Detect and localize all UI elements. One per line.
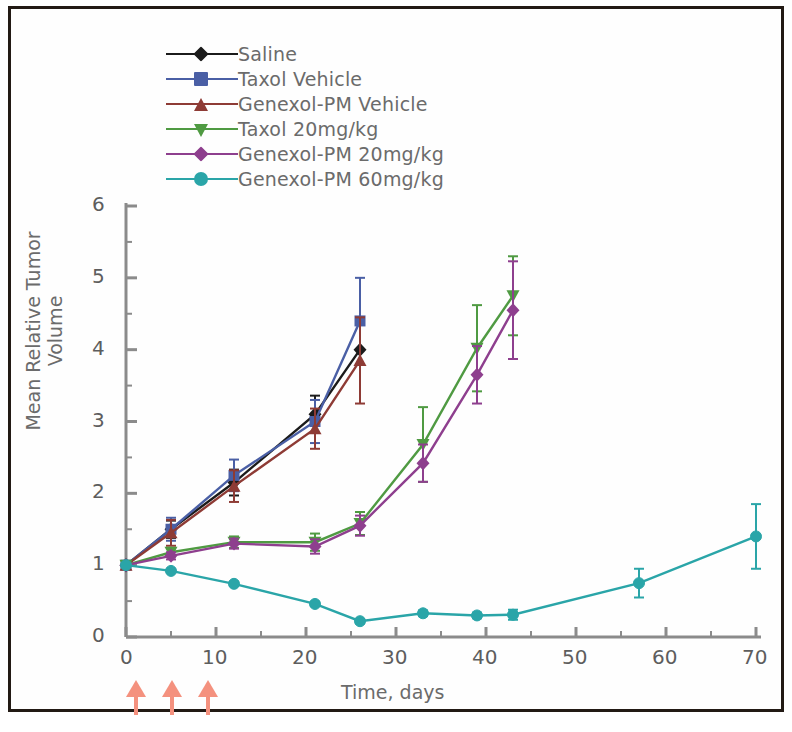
data-point-6-8	[508, 609, 519, 620]
data-point-6-7	[472, 610, 483, 621]
plot-area: Mean Relative Tumor Volume Time, days 01…	[11, 9, 787, 715]
dosing-arrow-head-2	[162, 680, 182, 697]
data-point-6-1	[121, 560, 132, 571]
figure-canvas: SalineTaxol VehicleGenexol-PM VehicleTax…	[11, 9, 781, 709]
series-line-5	[126, 310, 513, 565]
x-axis-title: Time, days	[341, 681, 444, 703]
data-point-6-4	[310, 598, 321, 609]
x-tick-label-50: 50	[562, 645, 587, 669]
x-tick-label-40: 40	[472, 645, 497, 669]
y-tick-label-3: 3	[92, 408, 105, 432]
y-axis-title: Mean Relative Tumor Volume	[22, 206, 66, 456]
x-tick-label-70: 70	[742, 645, 767, 669]
chart-plot-svg	[11, 9, 787, 715]
series-line-4	[126, 296, 513, 565]
dosing-arrow-head-1	[126, 680, 146, 697]
data-point-6-10	[751, 531, 762, 542]
data-point-5-8	[507, 303, 520, 317]
dosing-arrow-head-3	[198, 680, 218, 697]
series-line-1	[126, 350, 360, 566]
figure-frame: SalineTaxol VehicleGenexol-PM VehicleTax…	[8, 6, 784, 712]
series-line-3	[126, 360, 360, 565]
series-line-6	[126, 536, 756, 621]
x-tick-label-30: 30	[382, 645, 407, 669]
x-tick-label-20: 20	[292, 645, 317, 669]
data-point-6-5	[355, 616, 366, 627]
y-tick-label-1: 1	[92, 551, 105, 575]
data-point-5-7	[471, 368, 484, 382]
x-tick-label-60: 60	[652, 645, 677, 669]
series-line-2	[126, 321, 360, 565]
data-point-6-3	[229, 578, 240, 589]
y-tick-label-4: 4	[92, 336, 105, 360]
x-tick-label-10: 10	[202, 645, 227, 669]
data-point-6-9	[634, 578, 645, 589]
y-tick-label-0: 0	[92, 623, 105, 647]
y-tick-label-5: 5	[92, 264, 105, 288]
x-tick-label-0: 0	[120, 645, 133, 669]
y-tick-label-6: 6	[92, 192, 105, 216]
data-point-6-2	[166, 565, 177, 576]
y-tick-label-2: 2	[92, 479, 105, 503]
data-point-6-6	[418, 608, 429, 619]
